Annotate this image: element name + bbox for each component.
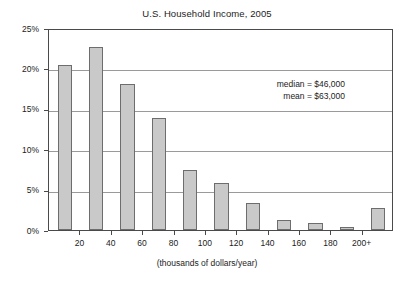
bar [277, 220, 291, 231]
bar [246, 203, 260, 231]
y-tick-mark [44, 29, 48, 30]
x-tick-mark [299, 231, 300, 235]
y-tick-mark [44, 69, 48, 70]
bar [120, 84, 134, 230]
bar [340, 227, 354, 230]
x-tick-mark [111, 231, 112, 235]
x-axis-caption: (thousands of dollars/year) [0, 258, 414, 268]
y-tick-label: 15% [0, 104, 39, 114]
x-tick-label: 160 [292, 238, 306, 248]
x-tick-label: 140 [260, 238, 274, 248]
x-tick-label: 20 [75, 238, 84, 248]
y-tick-mark [44, 110, 48, 111]
x-tick-mark [174, 231, 175, 235]
x-tick-label: 100 [198, 238, 212, 248]
bar [183, 170, 197, 230]
x-tick-mark [142, 231, 143, 235]
bar [214, 183, 228, 230]
x-tick-mark [79, 231, 80, 235]
mean-annotation: mean = $63,000 [225, 90, 345, 102]
x-tick-label: 120 [229, 238, 243, 248]
bar [371, 208, 385, 230]
x-tick-label: 80 [169, 238, 178, 248]
y-tick-mark [44, 150, 48, 151]
x-tick-mark [236, 231, 237, 235]
bar [58, 65, 72, 230]
y-tick-label: 10% [0, 145, 39, 155]
x-tick-label: 40 [106, 238, 115, 248]
x-tick-label: 180 [323, 238, 337, 248]
x-tick-label: 60 [137, 238, 146, 248]
x-tick-mark [362, 231, 363, 235]
bar [152, 118, 166, 230]
income-histogram-chart: U.S. Household Income, 2005 0%5%10%15%20… [0, 0, 414, 286]
chart-title: U.S. Household Income, 2005 [0, 8, 414, 19]
x-tick-label: 200+ [352, 238, 371, 248]
stats-annotation: median = $46,000 mean = $63,000 [225, 78, 345, 102]
y-tick-label: 5% [0, 185, 39, 195]
bar [89, 47, 103, 230]
y-tick-mark [44, 191, 48, 192]
median-annotation: median = $46,000 [225, 78, 345, 90]
x-tick-mark [330, 231, 331, 235]
x-tick-mark [205, 231, 206, 235]
y-tick-mark [44, 231, 48, 232]
y-tick-label: 20% [0, 64, 39, 74]
plot-area [48, 29, 393, 231]
bars-layer [49, 30, 392, 230]
y-tick-label: 25% [0, 24, 39, 34]
bar [308, 223, 322, 230]
y-tick-label: 0% [0, 226, 39, 236]
x-tick-mark [268, 231, 269, 235]
